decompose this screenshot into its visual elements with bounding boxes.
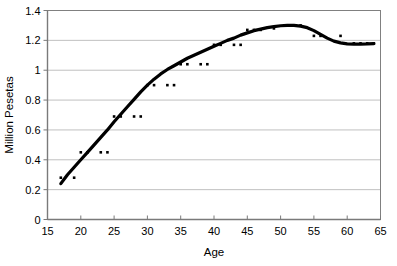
data-point [299, 24, 302, 27]
x-tick-label: 45 [241, 225, 253, 237]
data-point [239, 44, 242, 47]
data-point [353, 42, 356, 45]
data-point [233, 44, 236, 47]
y-tick-label: 0.6 [25, 124, 40, 136]
data-point [313, 35, 316, 38]
data-point [319, 35, 322, 38]
data-point [366, 42, 369, 45]
data-point [213, 44, 216, 47]
y-tick-label: 0 [34, 214, 40, 226]
data-point [253, 29, 256, 32]
data-point [139, 115, 142, 118]
data-point [219, 44, 222, 47]
data-point [286, 24, 289, 27]
data-point [99, 151, 102, 154]
data-point [293, 24, 296, 27]
x-tick-label: 15 [41, 225, 53, 237]
y-tick-label: 0.8 [25, 94, 40, 106]
data-point [146, 84, 149, 87]
x-tick-label: 30 [141, 225, 153, 237]
y-tick-label: 0.4 [25, 154, 40, 166]
y-tick-label: 1.4 [25, 5, 40, 17]
y-axis-title: Million Pesetas [3, 76, 15, 154]
data-point [273, 27, 276, 30]
data-point [186, 63, 189, 66]
y-axis-ticks: 00.20.40.60.811.21.4 [25, 5, 47, 226]
data-point [179, 63, 182, 66]
x-tick-label: 55 [308, 225, 320, 237]
scatter-plot: 00.20.40.60.811.21.415202530354045505560… [0, 0, 397, 266]
x-tick-label: 20 [75, 225, 87, 237]
data-point [106, 151, 109, 154]
x-tick-label: 35 [175, 225, 187, 237]
data-point [359, 42, 362, 45]
x-tick-label: 60 [341, 225, 353, 237]
y-tick-label: 0.2 [25, 184, 40, 196]
y-tick-label: 1.2 [25, 34, 40, 46]
data-point [373, 42, 376, 45]
x-tick-label: 65 [374, 225, 386, 237]
data-point [166, 84, 169, 87]
x-tick-label: 40 [208, 225, 220, 237]
data-point [173, 84, 176, 87]
data-point [73, 176, 76, 179]
x-tick-label: 50 [274, 225, 286, 237]
x-tick-label: 25 [108, 225, 120, 237]
plot-area-background [48, 11, 381, 220]
data-point [153, 84, 156, 87]
data-point [206, 63, 209, 66]
data-point [60, 176, 63, 179]
data-point [246, 29, 249, 32]
data-point [113, 115, 116, 118]
data-point [86, 151, 89, 154]
data-point [80, 151, 83, 154]
data-point [133, 115, 136, 118]
data-point [119, 115, 122, 118]
chart-container: 00.20.40.60.811.21.415202530354045505560… [0, 0, 397, 266]
data-point [199, 63, 202, 66]
x-axis-title: Age [204, 246, 224, 258]
data-point [339, 35, 342, 38]
data-point [259, 29, 262, 32]
y-tick-label: 1 [34, 64, 40, 76]
